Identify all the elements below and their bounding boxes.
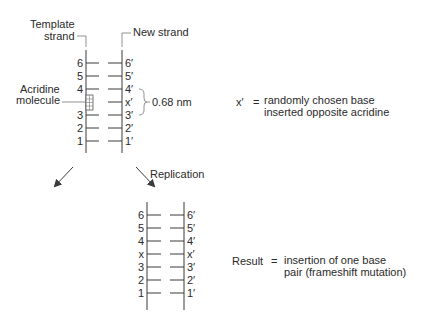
bottom-left-base-x: x: [139, 248, 145, 260]
bottom-right-base-6p: 6′: [187, 209, 195, 221]
template-base-1: 1: [77, 135, 83, 147]
new-base-5p: 5′: [125, 70, 133, 82]
new-strand-label: New strand: [133, 26, 189, 38]
bottom-right-base-1p: 1′: [187, 287, 195, 299]
new-base-6p: 6′: [125, 57, 133, 69]
new-base-xp: x′: [125, 96, 133, 108]
template-base-5: 5: [77, 70, 83, 82]
top-dna-diagram: Template strand New strand 6 5 4 3 2 1 6…: [16, 18, 389, 153]
left-arrow: [55, 167, 73, 186]
new-base-3p: 3′: [125, 109, 133, 121]
bottom-left-base-3: 3: [138, 261, 144, 273]
bottom-right-base-4p: 4′: [187, 235, 195, 247]
bottom-left-base-6: 6: [138, 209, 144, 221]
template-base-4: 4: [77, 83, 83, 95]
bottom-left-base-5: 5: [138, 222, 144, 234]
template-strand-label-1: Template: [30, 18, 75, 30]
result-text-1: insertion of one base: [284, 254, 386, 266]
acridine-molecule-box: [86, 95, 93, 110]
frameshift-diagram: Template strand New strand 6 5 4 3 2 1 6…: [0, 0, 426, 321]
bottom-right-base-5p: 5′: [187, 222, 195, 234]
replication-arrows: Replication: [55, 167, 204, 186]
bottom-left-base-2: 2: [138, 274, 144, 286]
distance-label: 0.68 nm: [152, 96, 192, 108]
acridine-label-2: molecule: [16, 94, 60, 106]
result-label: Result: [232, 255, 263, 267]
bottom-left-base-4: 4: [138, 235, 144, 247]
legend-symbol: x′: [236, 96, 244, 108]
new-strand-label-leader: [122, 33, 131, 47]
result-text-2: pair (frameshift mutation): [284, 266, 406, 278]
bottom-right-base-2p: 2′: [187, 274, 195, 286]
template-strand-label-2: strand: [44, 30, 75, 42]
bottom-left-base-1: 1: [138, 287, 144, 299]
legend-text-2: inserted opposite acridine: [264, 106, 389, 118]
bottom-dna-diagram: 6 5 4 x 3 2 1 6′ 5′ 4′ x′ 3′ 2′ 1′ Resul…: [138, 202, 406, 310]
new-base-2p: 2′: [125, 122, 133, 134]
bottom-right-base-xp: x′: [187, 248, 195, 260]
distance-bracket: [139, 89, 147, 115]
legend-equals: =: [253, 96, 259, 108]
template-base-6: 6: [77, 57, 83, 69]
template-base-2: 2: [77, 122, 83, 134]
result-equals: =: [271, 255, 277, 267]
new-base-4p: 4′: [125, 83, 133, 95]
template-label-leader: [77, 36, 86, 47]
legend-text-1: randomly chosen base: [264, 94, 375, 106]
replication-label: Replication: [150, 168, 204, 180]
template-base-3: 3: [77, 109, 83, 121]
new-base-1p: 1′: [125, 135, 133, 147]
bottom-right-base-3p: 3′: [187, 261, 195, 273]
